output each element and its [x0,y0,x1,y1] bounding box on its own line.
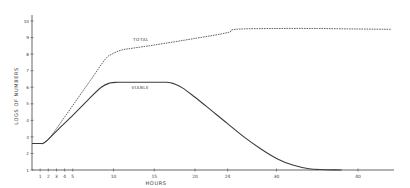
y-tick-label: 5 [26,101,29,106]
series-viable-label: VIABLE [131,85,149,90]
series-layer: TOTALVIABLE [32,28,391,170]
x-tick-label: 40 [355,174,361,179]
y-tick-label: 10 [24,19,30,24]
y-tick-label: 4 [26,118,29,123]
x-tick-label: 15 [151,174,157,179]
x-tick-label: 24 [225,174,231,179]
x-tick-label: 30 [274,174,280,179]
series-total-line [32,28,391,143]
x-tick-label: 20 [192,174,198,179]
x-tick-label: 10 [111,174,117,179]
x-tick-label: 4 [63,174,66,179]
y-tick-label: 8 [26,52,29,57]
x-tick-label: 1 [39,174,42,179]
y-tick-label: 3 [26,135,29,140]
y-tick-label: 6 [26,85,29,90]
y-tick-label: 1 [26,168,29,173]
y-tick-label: 9 [26,35,29,40]
y-axis-label: LOGS OF NUMBERS [13,67,19,125]
series-total-label: TOTAL [132,37,149,42]
y-tick-label: 2 [26,151,29,156]
series-viable-line [32,82,342,170]
x-tick-label: 2 [47,174,50,179]
y-tick-label: 7 [26,68,29,73]
x-tick-label: 5 [71,174,74,179]
x-axis-label: HOURS [145,180,166,186]
x-tick-label: 3 [55,174,58,179]
line-chart: 1234567891012345101520243040 TOTALVIABLE… [0,0,410,188]
chart-container: 1234567891012345101520243040 TOTALVIABLE… [0,0,410,188]
